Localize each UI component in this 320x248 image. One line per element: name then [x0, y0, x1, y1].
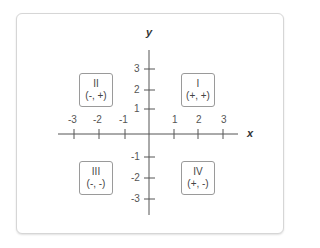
quadrant-ii-box: II (-, +): [79, 73, 113, 107]
y-tick-label: 1: [134, 103, 140, 114]
y-tick-label: 2: [134, 84, 140, 95]
quadrant-numeral: III: [80, 166, 112, 178]
x-axis-label: x: [247, 127, 253, 139]
x-tick-label: -1: [119, 114, 128, 125]
x-tick-label: 2: [196, 114, 202, 125]
y-tick-label: -1: [131, 151, 140, 162]
x-tick-label: 3: [221, 114, 227, 125]
quadrant-numeral: I: [182, 78, 214, 90]
y-tick-label: -2: [131, 172, 140, 183]
quadrant-numeral: IV: [182, 166, 214, 178]
x-tick-label: -3: [68, 114, 77, 125]
y-tick-label: -3: [131, 193, 140, 204]
y-axis-label: y: [146, 26, 152, 38]
quadrant-i-box: I (+, +): [181, 73, 215, 107]
quadrant-signs: (+, -): [182, 178, 214, 190]
x-tick-label: 1: [172, 114, 178, 125]
quadrant-signs: (-, -): [80, 178, 112, 190]
y-tick-label: 3: [134, 63, 140, 74]
quadrant-signs: (+, +): [182, 90, 214, 102]
quadrant-iv-box: IV (+, -): [181, 161, 215, 195]
x-tick-label: -2: [93, 114, 102, 125]
quadrant-signs: (-, +): [80, 90, 112, 102]
quadrant-numeral: II: [80, 78, 112, 90]
quadrant-iii-box: III (-, -): [79, 161, 113, 195]
